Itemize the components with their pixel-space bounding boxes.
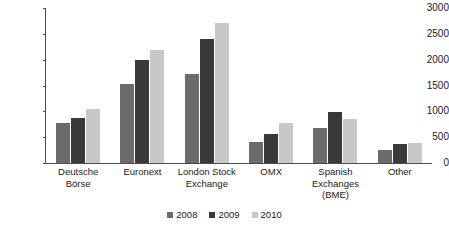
x-axis-label: OMX (239, 166, 303, 201)
bar (249, 142, 263, 163)
legend-label: 2010 (261, 210, 282, 220)
bar (378, 150, 392, 163)
bar-groups (46, 8, 432, 163)
bar (279, 123, 293, 163)
legend-item: 2010 (252, 210, 282, 220)
bar (185, 74, 199, 163)
x-axis-label: Spanish Exchanges (BME) (303, 166, 367, 201)
legend-swatch-icon (252, 212, 258, 218)
bar (313, 128, 327, 163)
legend-label: 2009 (218, 210, 239, 220)
legend-item: 2009 (209, 210, 239, 220)
legend-label: 2008 (176, 210, 197, 220)
y-axis (0, 0, 43, 231)
bar-chart: 300025002000150010005000 Deutsche BörseE… (0, 0, 449, 231)
x-axis-label: Other (368, 166, 432, 201)
bar (408, 143, 422, 163)
legend-item: 2008 (167, 210, 197, 220)
bar (264, 134, 278, 163)
bar (86, 109, 100, 163)
bar-group (368, 8, 432, 163)
bar-group (239, 8, 303, 163)
bar (393, 144, 407, 163)
x-axis-label: London Stock Exchange (175, 166, 239, 201)
bar-group (175, 8, 239, 163)
bar (215, 23, 229, 163)
x-axis-label: Deutsche Börse (46, 166, 110, 201)
bar (150, 50, 164, 163)
bar (120, 84, 134, 163)
bar-group (303, 8, 367, 163)
y-axis-tick-mark (43, 163, 46, 164)
bar-group (46, 8, 110, 163)
bar (200, 39, 214, 163)
bar (56, 123, 70, 163)
x-axis-label: Euronext (110, 166, 174, 201)
bar (343, 119, 357, 163)
x-axis-line (46, 163, 432, 164)
legend-swatch-icon (209, 212, 215, 218)
bar (135, 60, 149, 163)
legend-swatch-icon (167, 212, 173, 218)
chart-legend: 200820092010 (0, 210, 449, 220)
bar (328, 112, 342, 163)
x-axis-labels: Deutsche BörseEuronextLondon Stock Excha… (46, 166, 432, 201)
bar-group (110, 8, 174, 163)
bar (71, 118, 85, 163)
